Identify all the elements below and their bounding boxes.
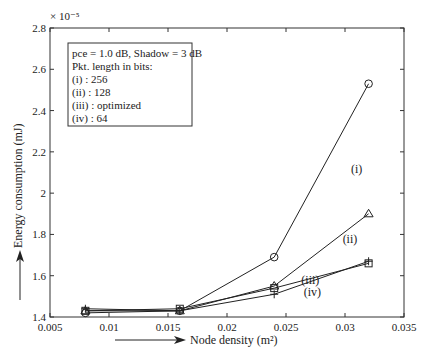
circle-marker-icon [365,80,373,88]
y-tick-label: 1.8 [32,228,46,240]
x-axis-label: Node density (m²) [190,333,278,347]
legend-line: (iv) : 64 [72,112,108,125]
legend-line: Pkt. length in bits: [72,60,153,72]
energy-vs-density-chart: 0.0050.010.0150.020.0250.030.0351.41.61.… [0,0,433,364]
legend-line: (ii) : 128 [72,86,111,99]
y-tick-label: 2.4 [32,105,46,117]
y-tick-label: 2.8 [32,22,46,34]
series-line [85,261,368,311]
x-tick-label: 0.025 [274,321,299,333]
x-tick-label: 0.01 [99,321,118,333]
legend-line: (iii) : optimized [72,99,142,112]
x-tick-label: 0.03 [335,321,355,333]
legend-line: (i) : 256 [72,73,108,86]
legend-box: pce = 1.0 dB, Shadow = 3 dBPkt. length i… [68,43,202,126]
x-tick-label: 0.02 [217,321,236,333]
y-tick-label: 2 [41,187,47,199]
y-tick-label: 1.4 [32,311,46,323]
series-line [85,214,368,311]
series-line [85,263,368,310]
series-label: (iv) [304,285,321,299]
x-tick-label: 0.015 [156,321,181,333]
x-tick-label: 0.035 [392,321,417,333]
series-label: (i) [351,162,362,176]
y-multiplier: × 10⁻⁵ [50,10,80,22]
legend-line: pce = 1.0 dB, Shadow = 3 dB [72,47,202,59]
y-tick-label: 1.6 [32,270,46,282]
y-tick-label: 2.6 [32,63,46,75]
y-tick-label: 2.2 [32,146,46,158]
y-axis-label: Energy consumption (mJ) [11,124,25,248]
series-label: (ii) [343,232,358,246]
